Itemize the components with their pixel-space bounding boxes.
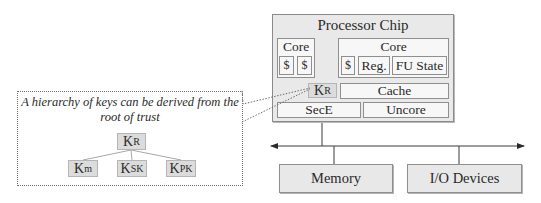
- tree-key-pk: KPK: [166, 160, 196, 177]
- tree-root-key: KR: [117, 133, 146, 150]
- callout-caption: A hierarchy of keys can be derived from …: [18, 95, 242, 125]
- tree-key-m: Km: [68, 160, 98, 177]
- tree-key-sk: KSK: [117, 160, 147, 177]
